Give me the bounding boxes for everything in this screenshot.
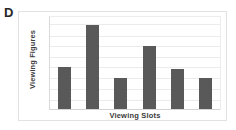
bar-5 [171, 69, 184, 109]
bars-group [50, 17, 220, 109]
y-axis-label-text: Viewing Figures [28, 30, 37, 89]
panel-label: D [4, 6, 14, 19]
bar-3 [114, 78, 127, 109]
bar-4 [143, 46, 156, 109]
chart-card: Viewing Figures Viewing Slots [18, 11, 227, 121]
x-axis-line [50, 109, 220, 110]
bar-2 [86, 25, 99, 109]
bar-1 [58, 67, 71, 109]
plot-area [49, 16, 221, 110]
figure-panel: D Viewing Figures Viewing Slots [0, 0, 236, 130]
x-axis-label: Viewing Slots [49, 111, 221, 120]
y-axis-label: Viewing Figures [17, 12, 47, 106]
bar-6 [199, 78, 212, 109]
